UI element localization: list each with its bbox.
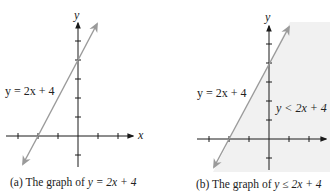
panel-b-y-axis-label: y [265,10,270,25]
caption-math: y ≤ 2x + 4 [274,178,321,190]
panel-a-y-axis-label: y [74,8,79,23]
panel-b-line-label: y = 2x + 4 [197,86,247,101]
line-equation-text: y = 2x + 4 [5,84,55,98]
panel-b-caption: (b) The graph of y ≤ 2x + 4 [196,178,322,190]
panel-a-line-label: y = 2x + 4 [5,84,55,99]
panel-a-x-axis-label: x [138,128,143,143]
caption-prefix: (a) The graph of [10,176,88,188]
line-equation-text: y = 2x + 4 [197,86,247,100]
caption-prefix: (b) The graph of [196,178,274,190]
region-label: y < 2x + 4 [276,101,327,116]
line-y-equals-2x-plus-4 [38,24,97,136]
panel-a-caption: (a) The graph of y = 2x + 4 [10,176,136,188]
caption-math: y = 2x + 4 [88,176,137,188]
